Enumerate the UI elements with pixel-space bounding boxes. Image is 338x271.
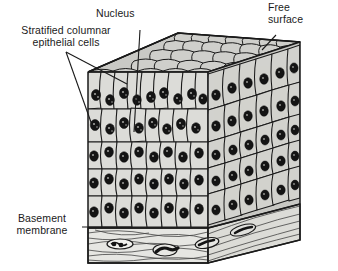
figure-canvas: Stratified columnar epithelial cells Nuc… xyxy=(0,0,338,271)
front-face-epithelium xyxy=(85,72,208,228)
label-free-surface: Free surface xyxy=(268,2,334,25)
label-stratified-columnar-epithelial-cells: Stratified columnar epithelial cells xyxy=(2,25,130,48)
label-nucleus: Nucleus xyxy=(96,8,184,20)
right-face-epithelium xyxy=(207,42,300,228)
label-basement-membrane: Basement membrane xyxy=(2,213,82,236)
